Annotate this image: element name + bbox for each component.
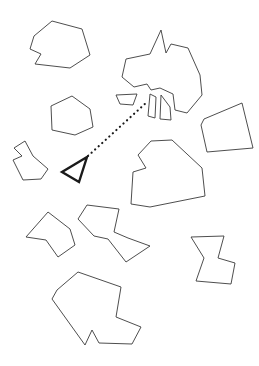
- shape-scatter-canvas: [0, 0, 259, 366]
- canvas-background: [0, 0, 259, 366]
- shape-canvas-svg: [0, 0, 259, 366]
